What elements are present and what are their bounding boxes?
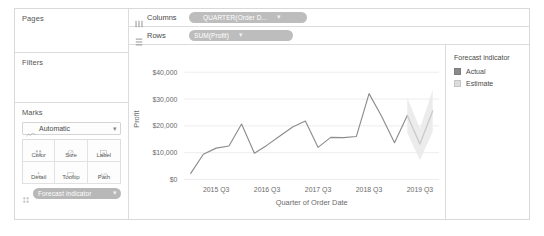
- path-icon: [99, 165, 108, 173]
- x-axis-title: Quarter of Order Date: [276, 198, 348, 207]
- legend-item-actual[interactable]: Actual: [454, 67, 529, 76]
- date-icon: [194, 15, 200, 21]
- shelf-sidebar: Pages Filters Marks Automatic ▾: [15, 9, 129, 219]
- x-axis-tick-label: 2019 Q3: [407, 186, 434, 194]
- columns-shelf[interactable]: Columns QUARTER(Order D... ▾: [129, 9, 529, 27]
- marks-card: Marks Automatic ▾: [15, 103, 128, 219]
- x-axis-tick-label: 2018 Q3: [356, 186, 383, 194]
- pages-shelf-title: Pages: [22, 14, 121, 23]
- marks-color-button[interactable]: Color: [23, 140, 55, 162]
- columns-icon: [135, 14, 143, 22]
- worksheet-frame: Pages Filters Marks Automatic ▾: [14, 8, 530, 220]
- mark-type-label: Automatic: [39, 125, 114, 132]
- line-mark-icon: [26, 125, 36, 133]
- marks-size-button[interactable]: Size: [55, 140, 87, 162]
- marks-path-button[interactable]: Path: [88, 162, 120, 184]
- chart-canvas[interactable]: $0$10,000$20,000$30,000$40,000Profit2015…: [129, 45, 445, 219]
- rows-shelf[interactable]: Rows SUM(Profit) ▾: [129, 27, 529, 45]
- legend-label-actual: Actual: [466, 67, 485, 76]
- x-axis-tick-label: 2017 Q3: [305, 186, 332, 194]
- columns-pill-quarter-order-date[interactable]: QUARTER(Order D... ▾: [189, 12, 307, 23]
- y-axis-tick-label: $20,000: [152, 122, 177, 129]
- color-icon: [34, 143, 43, 151]
- chevron-down-icon: ▾: [277, 14, 281, 21]
- view-column: Columns QUARTER(Order D... ▾: [129, 9, 529, 219]
- legend-swatch-estimate: [454, 80, 461, 87]
- x-axis-tick-label: 2016 Q3: [254, 186, 281, 194]
- y-axis-tick-label: $40,000: [152, 69, 177, 76]
- view-area: $0$10,000$20,000$30,000$40,000Profit2015…: [129, 45, 529, 219]
- pages-shelf[interactable]: Pages: [15, 9, 128, 53]
- color-icon: [22, 190, 30, 198]
- x-axis-tick-label: 2015 Q3: [203, 186, 230, 194]
- y-axis-tick-label: $10,000: [152, 149, 177, 156]
- marks-pill-label: Forecast indicator: [38, 190, 113, 197]
- profit-forecast-line-chart[interactable]: $0$10,000$20,000$30,000$40,000Profit2015…: [129, 45, 445, 219]
- marks-detail-button[interactable]: Detail: [23, 162, 55, 184]
- tooltip-icon: [66, 165, 75, 173]
- legend-title: Forecast indicator: [454, 53, 529, 63]
- rows-shelf-label: Rows: [147, 31, 189, 40]
- y-axis-title: Profit: [132, 110, 141, 127]
- rows-pill-sum-profit[interactable]: SUM(Profit) ▾: [189, 30, 293, 41]
- columns-pill-label: QUARTER(Order D...: [203, 14, 267, 21]
- marks-card-title: Marks: [22, 108, 121, 117]
- series-line-actual[interactable]: [191, 94, 408, 174]
- columns-shelf-label: Columns: [147, 13, 189, 22]
- legend-swatch-actual: [454, 68, 461, 75]
- detail-icon: [34, 165, 43, 173]
- rows-pill-label: SUM(Profit): [194, 32, 229, 39]
- y-axis-tick-label: $30,000: [152, 96, 177, 103]
- marks-forecast-indicator-pill[interactable]: Forecast indicator ▾: [33, 188, 121, 199]
- marks-tooltip-button[interactable]: Tooltip: [55, 162, 87, 184]
- legend-item-estimate[interactable]: Estimate: [454, 79, 529, 88]
- filters-shelf-title: Filters: [22, 58, 121, 67]
- chevron-down-icon: ▾: [113, 125, 117, 132]
- tableau-worksheet: Pages Filters Marks Automatic ▾: [0, 0, 544, 236]
- chevron-down-icon: ▾: [239, 32, 243, 39]
- chevron-down-icon: ▾: [113, 190, 117, 197]
- rows-icon: [135, 32, 143, 40]
- marks-button-grid: Color Size: [22, 139, 121, 184]
- marks-label-button[interactable]: Label: [88, 140, 120, 162]
- filters-shelf[interactable]: Filters: [15, 53, 128, 103]
- legend-label-estimate: Estimate: [466, 79, 493, 88]
- mark-type-dropdown[interactable]: Automatic ▾: [22, 122, 121, 135]
- marks-color-encoding-row: Forecast indicator ▾: [22, 188, 121, 199]
- color-legend: Forecast indicator Actual Estimate: [445, 45, 529, 219]
- y-axis-tick-label: $0: [170, 176, 178, 183]
- label-icon: [99, 143, 108, 151]
- size-icon: [66, 143, 75, 151]
